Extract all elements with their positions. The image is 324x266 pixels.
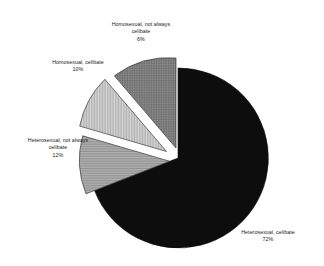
pie-label-percent: 12% — [2, 152, 114, 159]
footer-note — [6, 258, 318, 266]
pie-label-text: Heterosexual, celibate — [241, 229, 295, 235]
pie-label-text: Heterosexual, not always celibate — [28, 137, 88, 150]
pie-label-text: Homosexual, not always celibate — [112, 21, 171, 34]
pie-label-homosexual-celibate: Homosexual, celibate 10% — [22, 52, 134, 81]
pie-label-percent: 72% — [216, 236, 320, 243]
pie-label-text: Homosexual, celibate — [52, 59, 104, 65]
pie-label-heterosexual-not-always-celibate: Heterosexual, not always celibate 12% — [2, 130, 114, 166]
pie-label-homosexual-not-always-celibate: Homosexual, not always celibate 6% — [86, 14, 196, 50]
pie-chart: Homosexual, not always celibate 6% Homos… — [0, 0, 324, 266]
pie-label-percent: 10% — [22, 66, 134, 73]
pie-label-percent: 6% — [86, 36, 196, 43]
pie-label-heterosexual-celibate: Heterosexual, celibate 72% — [216, 222, 320, 251]
